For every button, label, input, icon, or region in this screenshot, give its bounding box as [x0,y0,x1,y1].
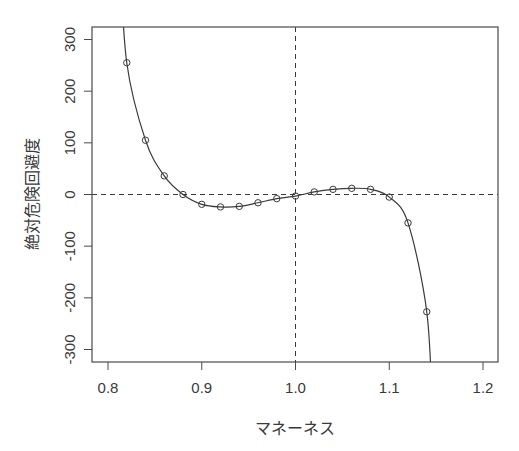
reference-lines [92,27,498,362]
y-tick-label: -100 [61,231,78,261]
x-tick-label: 0.9 [191,379,212,396]
chart: 0.80.91.01.11.2 -300-200-1000100200300 マ… [0,0,519,451]
y-tick-label: 100 [61,130,78,155]
x-axis: 0.80.91.01.11.2 [98,362,494,396]
y-tick-label: 200 [61,79,78,104]
y-tick-label: 300 [61,27,78,52]
y-tick-label: 0 [61,190,78,198]
x-tick-label: 1.0 [285,379,306,396]
y-tick-label: -300 [61,334,78,364]
series-line [119,0,432,412]
y-axis-title: 絶対危険回避度 [23,138,42,250]
x-tick-label: 1.2 [473,379,494,396]
data-markers [124,60,430,315]
x-tick-label: 1.1 [379,379,400,396]
y-tick-label: -200 [61,283,78,313]
x-tick-label: 0.8 [98,379,119,396]
y-axis: -300-200-1000100200300 [61,27,92,365]
x-axis-title: マネーネス [255,419,335,438]
data-curve [119,0,432,412]
